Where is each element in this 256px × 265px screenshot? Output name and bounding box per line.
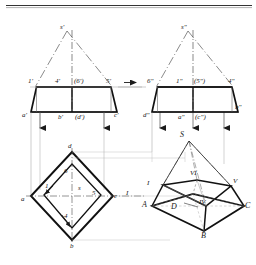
front-left-slant-upper (36, 31, 68, 87)
label-side-4: 4" (228, 78, 234, 85)
label-top-5: 5 (92, 190, 96, 197)
label-top-4: 4 (64, 213, 68, 220)
label-pictorial-V: V (233, 178, 237, 185)
label-front-1: 1' (28, 78, 33, 85)
front-view-group (30, 30, 146, 196)
label-pictorial-B: B (201, 232, 206, 240)
transfer-arrow-group (118, 83, 142, 88)
drawing-canvas: s' 1' 4' (6') 5' a' b' (d') c' s" 6" 1" … (0, 0, 256, 265)
label-side-apex: s" (181, 24, 187, 31)
label-front-b: b' (58, 114, 63, 121)
top-view-group (26, 148, 185, 244)
label-pictorial-D: D (171, 203, 177, 211)
label-side-6: 6" (147, 78, 153, 85)
label-pictorial-apex: S (180, 131, 184, 139)
label-top-axis-I: I (126, 190, 128, 197)
label-side-b: b" (235, 104, 241, 111)
label-pictorial-A: A (142, 201, 147, 209)
label-side-c: (c") (195, 114, 206, 121)
pictorial-lateral-VI-D (193, 180, 197, 194)
label-top-c: c (114, 193, 117, 200)
label-front-c: c' (114, 112, 119, 119)
label-side-5: (5") (194, 78, 205, 85)
label-pictorial-I: I (147, 180, 149, 187)
label-front-5: 5' (106, 78, 111, 85)
label-front-d: (d') (75, 114, 85, 121)
pictorial-view-group (152, 141, 244, 231)
side-view-group (152, 30, 238, 164)
label-front-a: a' (22, 112, 27, 119)
label-top-s: s (78, 185, 81, 192)
technical-drawing-svg (0, 0, 256, 265)
label-top-a: a (21, 196, 25, 203)
pictorial-lateral-IV-B (204, 206, 206, 231)
header-rule (6, 6, 252, 8)
pictorial-base-quad (152, 194, 244, 231)
label-side-d: d" (143, 112, 149, 119)
label-front-6: (6') (74, 78, 84, 85)
label-pictorial-IV: IV (199, 199, 206, 206)
label-front-4: 4' (55, 78, 60, 85)
side-trapezoid-outline (152, 87, 238, 112)
label-top-b: b (70, 243, 74, 250)
label-front-apex: s' (60, 24, 64, 31)
label-top-6: 6 (64, 168, 68, 175)
pictorial-slant-right (189, 141, 231, 186)
label-side-a: a" (178, 114, 184, 121)
side-left-slant-upper (157, 31, 189, 87)
label-top-d: d (68, 143, 72, 150)
front-trapezoid-outline (31, 87, 117, 112)
label-top-1: 1 (45, 183, 49, 190)
label-pictorial-C: C (245, 202, 250, 210)
pictorial-slant-left (163, 141, 189, 185)
label-side-1: 1" (176, 78, 182, 85)
label-pictorial-VI: VI (190, 170, 197, 177)
